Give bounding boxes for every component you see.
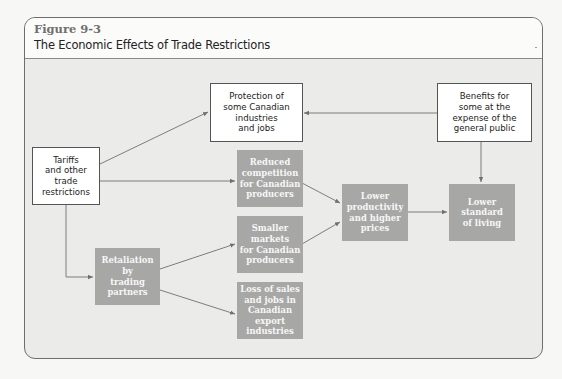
node-protection-label: Protection of some Canadian industries a… (223, 91, 290, 133)
node-lower-standard: Lower standard of living (449, 184, 515, 241)
node-loss-of-sales: Loss of sales and jobs in Canadian expor… (237, 282, 303, 339)
speck (535, 47, 537, 48)
node-reduced-competition-label: Reduced competition for Canadian produce… (240, 157, 301, 199)
node-retaliation: Retaliation by trading partners (95, 248, 160, 305)
node-protection: Protection of some Canadian industries a… (210, 83, 303, 142)
node-smaller-markets: Smaller markets for Canadian producers (237, 216, 303, 273)
node-tariffs: Tariffs and other trade restrictions (32, 147, 100, 205)
node-smaller-markets-label: Smaller markets for Canadian producers (237, 223, 303, 265)
node-lower-standard-label: Lower standard of living (461, 197, 503, 229)
figure-header: Figure 9-3 The Economic Effects of Trade… (25, 18, 542, 59)
figure-title: The Economic Effects of Trade Restrictio… (34, 38, 270, 52)
node-tariffs-label: Tariffs and other trade restrictions (42, 155, 90, 197)
node-lower-productivity: Lower productivity and higher prices (342, 184, 408, 241)
figure-number: Figure 9-3 (34, 22, 101, 36)
node-retaliation-label: Retaliation by trading partners (101, 255, 153, 297)
node-lower-productivity-label: Lower productivity and higher prices (347, 191, 404, 233)
node-benefits-label: Benefits for some at the expense of the … (452, 91, 516, 133)
node-reduced-competition: Reduced competition for Canadian produce… (237, 150, 303, 207)
node-loss-of-sales-label: Loss of sales and jobs in Canadian expor… (237, 284, 303, 337)
node-benefits: Benefits for some at the expense of the … (437, 83, 532, 142)
